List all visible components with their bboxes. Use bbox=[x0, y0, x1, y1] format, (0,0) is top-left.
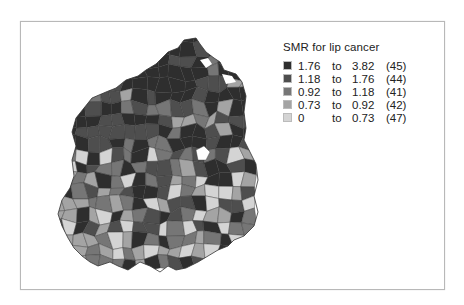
district-region bbox=[220, 42, 233, 53]
district-region bbox=[50, 147, 65, 164]
district-region bbox=[232, 246, 244, 261]
legend-swatch bbox=[283, 74, 292, 83]
legend-high: 3.82 bbox=[352, 60, 386, 72]
district-region bbox=[132, 41, 150, 52]
district-region bbox=[88, 135, 100, 152]
legend-low: 0.73 bbox=[298, 99, 332, 111]
district-region bbox=[107, 53, 123, 69]
district-region bbox=[219, 172, 233, 186]
district-region bbox=[169, 30, 181, 41]
district-region bbox=[232, 186, 242, 200]
district-region bbox=[147, 90, 155, 106]
district-region bbox=[111, 101, 121, 114]
district-region bbox=[98, 30, 111, 42]
district-region bbox=[243, 256, 257, 271]
district-region bbox=[147, 40, 159, 52]
district-region bbox=[227, 42, 243, 52]
district-region bbox=[219, 186, 233, 200]
district-region bbox=[156, 159, 172, 176]
legend-sep: to bbox=[332, 99, 352, 111]
district-region bbox=[107, 69, 125, 79]
district-region bbox=[123, 231, 133, 248]
district-region bbox=[109, 28, 124, 40]
district-region bbox=[107, 39, 125, 56]
district-region bbox=[60, 99, 76, 117]
district-region bbox=[208, 75, 220, 92]
district-region bbox=[60, 116, 77, 128]
district-region bbox=[227, 260, 245, 271]
district-region bbox=[77, 207, 90, 223]
district-region bbox=[145, 115, 159, 124]
district-region bbox=[228, 234, 244, 246]
legend-item: 0to0.73(47) bbox=[283, 111, 416, 124]
district-region bbox=[71, 255, 89, 272]
district-region bbox=[49, 99, 60, 117]
district-region bbox=[83, 40, 100, 56]
legend-high: 1.18 bbox=[352, 86, 386, 98]
district-region bbox=[75, 40, 85, 53]
district-region bbox=[84, 66, 100, 80]
district-region bbox=[239, 63, 256, 81]
district-region bbox=[48, 123, 64, 139]
legend-low: 0.92 bbox=[298, 86, 332, 98]
legend-sep: to bbox=[332, 60, 352, 72]
district-region bbox=[63, 42, 75, 53]
district-region bbox=[76, 30, 85, 44]
district-region bbox=[64, 161, 78, 172]
district-region bbox=[123, 69, 133, 79]
district-region bbox=[47, 243, 63, 260]
district-region bbox=[76, 116, 87, 128]
map-legend: SMR for lip cancer 1.76to3.82(45)1.18to1… bbox=[283, 41, 416, 124]
district-region bbox=[158, 30, 173, 41]
district-region bbox=[167, 221, 185, 237]
legend-count: (41) bbox=[386, 86, 416, 98]
legend-count: (42) bbox=[386, 99, 416, 111]
legend-high: 1.76 bbox=[352, 73, 386, 85]
legend-count: (47) bbox=[386, 112, 416, 124]
district-region bbox=[125, 124, 136, 140]
district-region bbox=[95, 56, 107, 69]
district-region bbox=[63, 64, 76, 81]
district-region bbox=[85, 53, 100, 69]
legend-low: 1.18 bbox=[298, 73, 332, 85]
district-region bbox=[239, 243, 254, 261]
district-region bbox=[74, 77, 87, 90]
legend-high: 0.73 bbox=[352, 112, 386, 124]
district-region bbox=[84, 87, 101, 102]
district-region bbox=[60, 90, 75, 103]
district-region bbox=[227, 51, 240, 69]
district-region bbox=[50, 256, 62, 269]
district-region bbox=[87, 152, 100, 165]
district-region bbox=[83, 30, 100, 42]
legend-count: (44) bbox=[386, 73, 416, 85]
legend-count: (45) bbox=[386, 60, 416, 72]
district-region bbox=[229, 29, 244, 43]
region-layer bbox=[47, 27, 258, 273]
district-region bbox=[143, 185, 158, 199]
district-region bbox=[50, 88, 64, 105]
district-region bbox=[239, 51, 257, 68]
district-region bbox=[119, 51, 132, 69]
legend-swatch bbox=[283, 113, 292, 122]
district-region bbox=[241, 99, 257, 116]
district-region bbox=[133, 27, 147, 45]
district-region bbox=[203, 256, 220, 270]
district-region bbox=[49, 171, 64, 189]
district-region bbox=[75, 53, 86, 69]
district-region bbox=[63, 77, 76, 90]
legend-low: 0 bbox=[298, 112, 332, 124]
district-region bbox=[47, 235, 65, 247]
district-region bbox=[243, 29, 254, 44]
legend-swatch bbox=[283, 87, 292, 96]
district-region bbox=[84, 101, 101, 116]
district-region bbox=[63, 52, 76, 64]
district-region bbox=[124, 28, 133, 41]
district-region bbox=[216, 256, 231, 270]
district-region bbox=[86, 255, 101, 274]
district-region bbox=[101, 101, 111, 116]
district-region bbox=[52, 135, 65, 150]
legend-swatch bbox=[283, 61, 292, 70]
district-region bbox=[48, 111, 64, 124]
district-region bbox=[98, 40, 109, 57]
district-region bbox=[207, 31, 221, 42]
